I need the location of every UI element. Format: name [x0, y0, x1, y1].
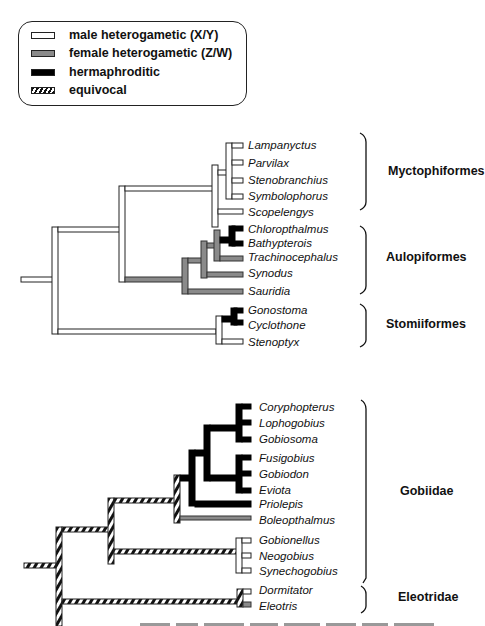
equivocal-swatch-icon: [31, 87, 55, 94]
taxon-label: Gobionellus: [259, 533, 320, 547]
taxon-label: Eviota: [259, 483, 291, 497]
taxon-label: Coryphopterus: [259, 400, 334, 414]
taxon-label: Symbolophorus: [248, 189, 328, 203]
caption-fragment: [140, 619, 440, 626]
taxon-label: Gobiosoma: [259, 432, 318, 446]
legend: male heterogametic (X/Y) female heteroga…: [18, 21, 247, 106]
taxon-label: Gobiodon: [259, 467, 309, 481]
legend-item-male: male heterogametic (X/Y): [31, 26, 218, 44]
bracket-eleotridae: [361, 586, 366, 613]
female-heterogametic-swatch-icon: [31, 50, 55, 57]
taxon-label: Sauridia: [248, 284, 290, 298]
male-heterogametic-swatch-icon: [31, 32, 55, 39]
clade-label-stomiiformes: Stomiiformes: [386, 317, 466, 331]
bracket-stomiiformes: [360, 304, 366, 347]
taxon-label: Chloropthalmus: [248, 222, 329, 236]
legend-item-female: female heterogametic (Z/W): [31, 44, 232, 62]
taxon-label: Synodus: [248, 266, 293, 280]
clade-label-myctophiformes: Myctophiformes: [388, 164, 485, 178]
clade-label-gobiidae: Gobiidae: [400, 484, 453, 498]
bracket-gobiidae: [361, 400, 366, 583]
taxon-label: Cyclothone: [248, 318, 306, 332]
clade-label-eleotridae: Eleotridae: [398, 590, 458, 604]
taxon-label: Stenobranchius: [248, 173, 328, 187]
legend-item-equivocal: equivocal: [31, 81, 127, 99]
taxon-label: Parvilax: [248, 156, 289, 170]
taxon-label: Gonostoma: [248, 303, 307, 317]
taxon-label: Trachinocephalus: [248, 250, 338, 264]
taxon-label: Synechogobius: [259, 564, 338, 578]
lower-tree-branches: [24, 404, 251, 626]
taxon-label: Neogobius: [259, 549, 314, 563]
taxon-label: Scopelengys: [248, 205, 314, 219]
bracket-aulopiformes: [360, 226, 366, 294]
taxon-label: Dormitator: [259, 583, 313, 597]
taxon-label: Bathypterois: [248, 236, 312, 250]
taxon-label: Stenoptyx: [248, 335, 299, 349]
taxon-label: Lophogobius: [259, 416, 325, 430]
taxon-label: Boleopthalmus: [259, 513, 335, 527]
clade-brackets: [360, 133, 366, 613]
taxon-label: Eleotris: [259, 599, 297, 613]
clade-label-aulopiformes: Aulopiformes: [386, 250, 467, 264]
taxon-label: Priolepis: [259, 497, 303, 511]
taxon-label: Fusigobius: [259, 451, 315, 465]
hermaphroditic-swatch-icon: [31, 69, 55, 76]
taxon-label: Lampanyctus: [248, 138, 316, 152]
upper-tree-branches: [21, 143, 243, 344]
legend-item-hermaphroditic: hermaphroditic: [31, 63, 160, 81]
bracket-myctophiformes: [360, 133, 366, 210]
